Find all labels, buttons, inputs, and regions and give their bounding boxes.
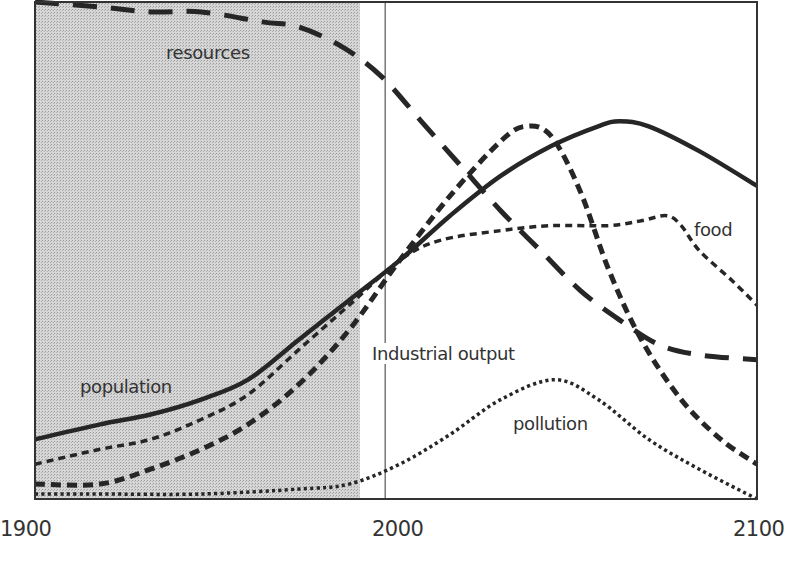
historical-shaded-region: [35, 2, 360, 499]
x-tick-2000: 2000: [372, 517, 423, 541]
series-label-pollution: pollution: [513, 413, 588, 434]
x-tick-1900: 1900: [0, 517, 51, 541]
series-label-resources: resources: [166, 42, 250, 63]
series-label-industrial-output: Industrial output: [370, 343, 517, 364]
chart-canvas: [0, 0, 787, 572]
series-label-population: population: [80, 376, 172, 397]
x-tick-2100: 2100: [733, 517, 784, 541]
series-label-food: food: [694, 219, 732, 240]
